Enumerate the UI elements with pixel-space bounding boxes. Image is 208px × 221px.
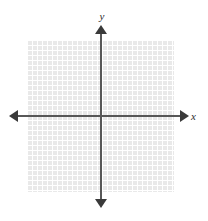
y-axis-label: y [97,11,107,22]
arrow-right-icon [180,110,189,122]
x-axis-label: x [191,111,201,122]
x-axis-line [16,115,182,117]
arrow-down-icon [95,199,107,208]
y-axis-line [100,32,102,201]
coordinate-plane-figure: y x [0,0,208,221]
arrow-left-icon [9,110,18,122]
arrow-up-icon [95,25,107,34]
